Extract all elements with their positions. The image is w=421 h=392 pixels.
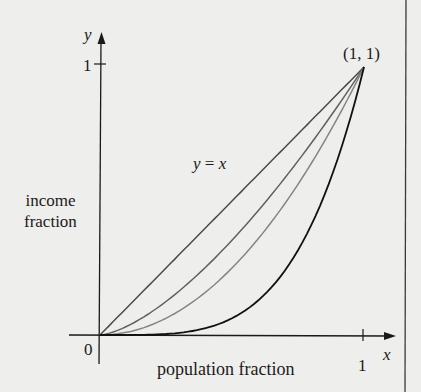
x-axis-label: population fraction	[157, 360, 294, 378]
x-axis-arrow-icon	[384, 332, 396, 340]
y-tick-label-1: 1	[83, 57, 92, 74]
curve-1	[100, 67, 364, 335]
x-axis-name: x	[383, 346, 391, 363]
point-annotation: (1, 1)	[343, 45, 380, 62]
y-axis-label-line1: income	[24, 190, 77, 211]
y-axis-label-line2: fraction	[24, 211, 77, 232]
curves-group	[100, 67, 364, 335]
lorenz-curve-figure: y 1 0 1 x (1, 1) y = x income fraction p…	[0, 0, 421, 392]
x-tick-label-1: 1	[358, 357, 367, 374]
y-axis-arrow-icon	[98, 32, 106, 44]
y-axis-label: income fraction	[24, 190, 77, 232]
y-axis	[99, 40, 101, 364]
page-border-line	[405, 0, 406, 392]
x-tick-label-0: 0	[84, 341, 93, 358]
line-annotation: y = x	[193, 155, 226, 172]
y-axis-name: y	[84, 26, 92, 43]
